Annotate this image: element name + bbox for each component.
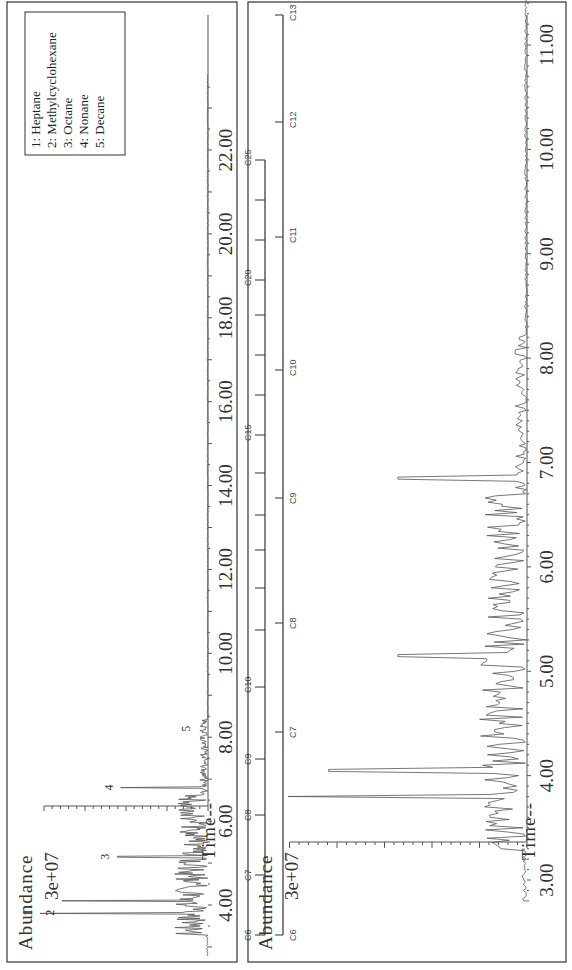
bottom-x-tick-label: 8.00 (536, 342, 557, 375)
top-x-tick-label: 14.00 (215, 464, 236, 507)
top-x-tick-label: 16.00 (215, 380, 236, 423)
legend-item-1: 1: Heptane (28, 91, 43, 148)
carbon-label: C7 (288, 726, 298, 738)
carbon-label: C13 (288, 4, 298, 21)
legend-item-4: 4: Nonane (76, 94, 91, 148)
carbon-label: C11 (288, 227, 298, 243)
top-x-tick-label: 10.00 (215, 632, 236, 675)
svg-text:3: 3 (98, 854, 112, 860)
carbon-label: C12 (288, 111, 298, 128)
legend-item-2: 2: Methylcyclohexane (44, 32, 59, 148)
top-x-tick-label: 18.00 (215, 296, 236, 339)
top-x-tick-label: 8.00 (215, 721, 236, 754)
carbon-scale-short: C6C7C8C9C10C11C12C13 (275, 4, 298, 941)
top-y-axis-title: Abundance (15, 854, 36, 950)
carbon-label: C8 (288, 617, 298, 629)
bottom-x-ticks: 3.004.005.006.007.008.009.0010.0011.00 (527, 0, 557, 901)
carbon-label: C10 (288, 359, 298, 376)
top-x-tick-label: 22.00 (215, 129, 236, 172)
bottom-y-axis (290, 842, 528, 848)
bottom-x-axis-title: Time-- (518, 802, 539, 860)
bottom-x-tick-label: 3.00 (536, 863, 557, 896)
legend: 1: Heptane 2: Methylcyclohexane 3: Octan… (25, 12, 125, 155)
svg-text:2: 2 (43, 910, 57, 916)
carbon-label: C9 (288, 492, 298, 504)
top-y-tick-label: 3e+07 (41, 852, 62, 900)
top-x-tick-label: 4.00 (215, 888, 236, 921)
bottom-y-tick-label: 3e+07 (281, 852, 302, 900)
legend-item-5: 5: Decane (92, 95, 107, 148)
top-x-tick-label: 6.00 (215, 804, 236, 837)
legend-item-3: 3: Octane (60, 98, 75, 148)
svg-text:5: 5 (179, 726, 193, 732)
bottom-x-tick-label: 9.00 (536, 237, 557, 270)
bottom-x-tick-label: 7.00 (536, 446, 557, 479)
chromatogram-figure: Abundance 3e+07 Time-- 4.006.008.0010.00… (0, 0, 572, 970)
svg-text:4: 4 (102, 785, 116, 791)
bottom-y-axis-title: Abundance (255, 854, 276, 950)
bottom-chromatogram-trace (288, 0, 527, 901)
figure-canvas: Abundance 3e+07 Time-- 4.006.008.0010.00… (0, 0, 572, 970)
top-x-tick-label: 12.00 (215, 548, 236, 591)
bottom-x-tick-label: 10.00 (536, 128, 557, 171)
bottom-x-tick-label: 5.00 (536, 655, 557, 688)
carbon-label: C6 (288, 929, 298, 941)
top-x-tick-label: 20.00 (215, 213, 236, 256)
bottom-x-tick-label: 4.00 (536, 759, 557, 792)
bottom-x-tick-label: 11.00 (536, 24, 557, 66)
svg-text:1: 1 (21, 910, 35, 916)
bottom-x-tick-label: 6.00 (536, 550, 557, 583)
carbon-scale-long: C6C7C8C9C10C15C20C25 (243, 149, 265, 941)
top-chromatogram-trace (40, 75, 208, 956)
